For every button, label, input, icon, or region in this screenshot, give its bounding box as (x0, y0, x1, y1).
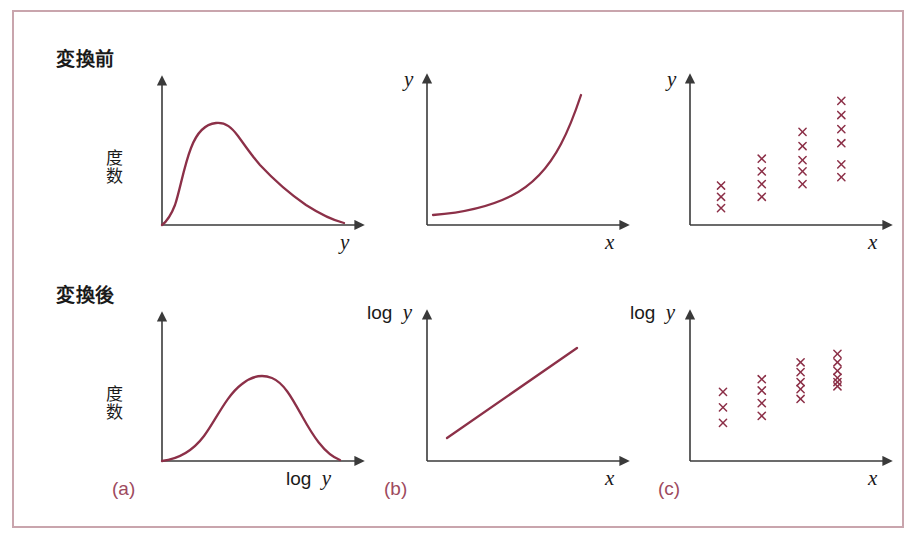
xlabel-text: y (340, 230, 349, 254)
panel-caption-b: (b) (384, 478, 407, 500)
panel-a-top-plot (134, 62, 384, 242)
xlabel-text: x (868, 230, 877, 254)
ylabel-log-text: log (367, 302, 392, 323)
panel-c-bottom: log y x (662, 298, 912, 478)
panel-b-top-xlabel: x (605, 230, 614, 255)
panel-caption-a: (a) (112, 478, 135, 500)
exponential-curve (433, 95, 581, 215)
panel-b-top-ylabel: y (404, 67, 413, 92)
panel-a-top-ylabel: 度 数 (106, 150, 123, 186)
row-label-before: 変換前 (56, 44, 115, 71)
panel-a-top: 度 数 y (134, 62, 384, 242)
ylabel-var-text: y (398, 300, 413, 324)
distribution-curve (162, 376, 340, 461)
xlabel-var-text: y (317, 466, 332, 490)
scatter-markers (719, 350, 841, 426)
panel-c-bottom-ylabel: log y (630, 300, 675, 325)
panel-a-bottom-plot (134, 298, 384, 478)
distribution-curve (162, 123, 344, 225)
panel-c-top-xlabel: x (868, 230, 877, 255)
scatter-markers (717, 97, 844, 211)
panel-a-bottom-xlabel: log y (286, 466, 331, 491)
panel-b-bottom-ylabel: log y (367, 300, 412, 325)
panel-a-bottom: 度 数 log y (134, 298, 384, 478)
panel-b-bottom-xlabel: x (605, 466, 614, 491)
panel-b-bottom-plot (399, 298, 649, 478)
figure-frame: 変換前 変換後 度 数 y (12, 10, 904, 528)
panel-a-top-xlabel: y (340, 230, 349, 255)
xlabel-text: x (605, 466, 614, 490)
regression-line (447, 348, 577, 438)
panel-c-top-ylabel: y (667, 67, 676, 92)
panel-c-bottom-xlabel: x (868, 466, 877, 491)
figure-page: 変換前 変換後 度 数 y (0, 0, 920, 544)
row-label-after: 変換後 (56, 280, 115, 307)
panel-c-top-plot (662, 62, 912, 242)
panel-b-top: y x (399, 62, 649, 242)
ylabel-text: y (404, 67, 413, 91)
panel-c-top: y x (662, 62, 912, 242)
xlabel-log-text: log (286, 468, 311, 489)
panel-b-bottom: log y x (399, 298, 649, 478)
panel-a-bottom-ylabel: 度 数 (106, 386, 123, 422)
ylabel-char-2: 数 (106, 168, 123, 186)
ylabel-log-text: log (630, 302, 655, 323)
xlabel-text: x (868, 466, 877, 490)
ylabel-char-2: 数 (106, 404, 123, 422)
ylabel-text: y (667, 67, 676, 91)
panel-b-top-plot (399, 62, 649, 242)
panel-caption-c: (c) (658, 478, 680, 500)
panel-c-bottom-plot (662, 298, 912, 478)
ylabel-var-text: y (661, 300, 676, 324)
xlabel-text: x (605, 230, 614, 254)
